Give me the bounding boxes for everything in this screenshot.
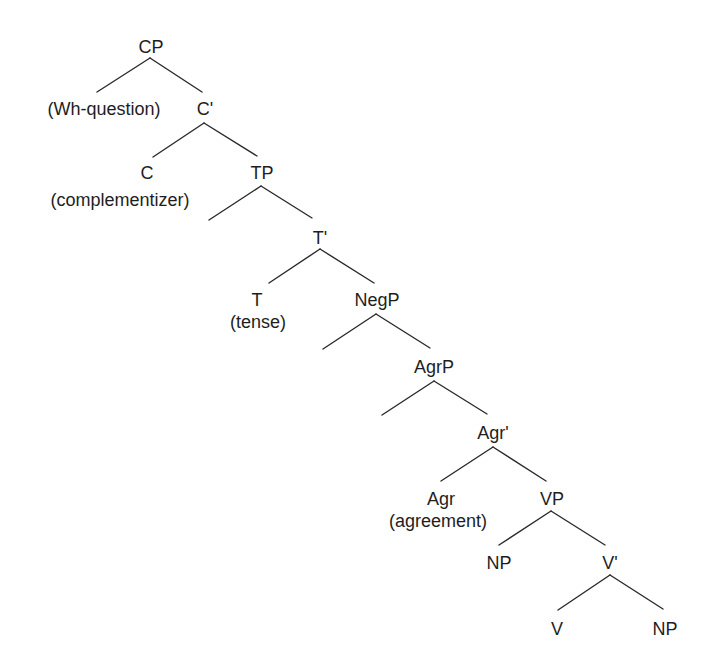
node-cp: CP (138, 37, 163, 57)
edge-agrp-to-spec (382, 381, 434, 415)
node-vp: VP (540, 489, 564, 509)
node-tp: TP (250, 163, 273, 183)
edge-agrbar-to-agr (441, 447, 493, 481)
node-np-object: NP (652, 619, 677, 639)
edge-tp-to-spec (209, 186, 261, 220)
edge-vbar-to-np (610, 575, 663, 609)
node-t: T (252, 290, 263, 310)
node-v: V (551, 619, 563, 639)
node-negp: NegP (354, 290, 399, 310)
node-np-subject: NP (486, 553, 511, 573)
edge-tbar-to-t (269, 249, 320, 283)
tree-nodes: CP (Wh-question) C' C (complementizer) T… (47, 37, 677, 639)
node-t-bar: T' (313, 228, 327, 248)
edge-agrp-to-agrbar (434, 381, 487, 414)
edge-negp-to-spec (323, 314, 376, 349)
edge-vp-to-vbar (551, 511, 605, 545)
node-c-bar: C' (197, 99, 213, 119)
edge-agrbar-to-vp (493, 447, 546, 481)
edge-tp-to-tbar (261, 186, 312, 218)
tree-edges (97, 58, 663, 610)
node-tense: (tense) (230, 312, 286, 332)
edge-tbar-to-negp (320, 249, 374, 283)
edge-cbar-to-tp (204, 123, 257, 156)
edge-negp-to-agrp (376, 314, 430, 348)
node-agreement: (agreement) (389, 511, 487, 531)
edge-cp-to-spec (97, 58, 150, 92)
node-wh-question: (Wh-question) (47, 99, 160, 119)
node-agrp: AgrP (414, 357, 454, 377)
node-c: C (141, 163, 154, 183)
edge-vbar-to-v (558, 575, 610, 610)
node-v-bar: V' (602, 553, 617, 573)
edge-cbar-to-c (153, 123, 204, 157)
syntax-tree-diagram: CP (Wh-question) C' C (complementizer) T… (0, 0, 710, 659)
edge-vp-to-np (499, 511, 551, 545)
node-agr: Agr (427, 489, 455, 509)
node-complementizer: (complementizer) (50, 190, 189, 210)
edge-cp-to-cbar (150, 58, 202, 92)
node-agr-bar: Agr' (477, 423, 508, 443)
